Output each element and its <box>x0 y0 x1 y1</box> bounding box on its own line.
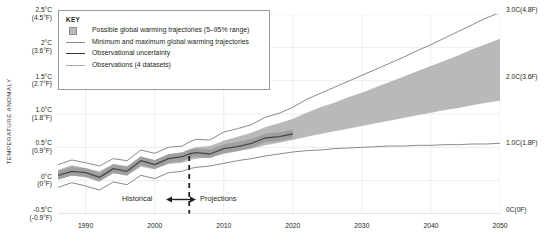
left-tick-1: 2°C(3.6°F) <box>6 39 52 54</box>
left-tick-6: -0.5°C(-0.9°F) <box>6 206 52 221</box>
left-tick-0: 2.5°C(4.5°F) <box>6 6 52 21</box>
era-annotations: Historical Projections <box>0 192 548 208</box>
observational-uncertainty-band <box>58 130 293 182</box>
tick-fahrenheit: (2.7°F) <box>6 80 52 88</box>
right-tick-0: 3.0C(4.8F) <box>506 6 542 14</box>
legend-line-obs-line-icon <box>66 65 85 66</box>
legend-item-label: Observational uncertainty <box>92 49 170 58</box>
x-tick-2040: 2040 <box>423 222 438 229</box>
x-tick-2030: 2030 <box>354 222 369 229</box>
tick-fahrenheit: (3.6F) <box>520 73 538 80</box>
legend-swatch-band-icon <box>69 27 77 35</box>
tick-fahrenheit: (4.5°F) <box>6 14 52 22</box>
legend-line-thin-line-icon <box>66 42 85 43</box>
legend-mark-obs-line <box>65 61 87 70</box>
tick-fahrenheit: (4.8F) <box>520 6 538 13</box>
tick-celsius: 0.5°C <box>6 139 52 147</box>
legend: KEY Possible global warming trajectories… <box>58 10 270 90</box>
legend-mark-dark-line <box>65 49 87 58</box>
legend-item-label: Observations (4 datasets) <box>92 61 171 70</box>
legend-line-dark-line-icon <box>66 53 85 54</box>
tick-celsius: 2.0C <box>506 73 520 80</box>
x-tick-2050: 2050 <box>492 222 507 229</box>
tick-celsius: 2°C <box>6 39 52 47</box>
legend-item-1: Minimum and maximum global warming traje… <box>65 38 263 47</box>
era-double-arrow-icon <box>166 195 196 204</box>
x-tick-2020: 2020 <box>285 222 300 229</box>
left-tick-4: 0.5°C(0.9°F) <box>6 139 52 154</box>
climate-projection-chart: TEMPERATURE ANOMALY 2.5°C(4.5°F)2°C(3.6°… <box>0 0 548 243</box>
era-label-projections: Projections <box>200 194 237 203</box>
tick-fahrenheit: (0.9°F) <box>6 147 52 155</box>
tick-celsius: 1.0C <box>506 139 520 146</box>
legend-mark-thin-line <box>65 38 87 47</box>
legend-item-2: Observational uncertainty <box>65 49 263 58</box>
tick-fahrenheit: (1.8°F) <box>6 114 52 122</box>
tick-fahrenheit: (1.8F) <box>520 139 538 146</box>
left-tick-5: 0°C(0°F) <box>6 173 52 188</box>
x-tick-2000: 2000 <box>147 222 162 229</box>
legend-items: Possible global warming trajectories (5–… <box>65 26 263 70</box>
era-label-historical: Historical <box>122 194 152 203</box>
legend-title: KEY <box>66 16 263 23</box>
x-tick-2010: 2010 <box>216 222 231 229</box>
legend-item-label: Possible global warming trajectories (5–… <box>92 26 249 35</box>
tick-celsius: 3.0C <box>506 6 520 13</box>
x-axis-ticks: 1990200020102020203020402050 <box>0 222 548 236</box>
tick-fahrenheit: (0°F) <box>6 180 52 188</box>
tick-fahrenheit: (-0.9°F) <box>6 214 52 222</box>
right-tick-2: 1.0C(1.8F) <box>506 139 542 147</box>
legend-mark-swatch <box>65 26 87 35</box>
legend-item-0: Possible global warming trajectories (5–… <box>65 26 263 35</box>
tick-celsius: 1.0°C <box>6 106 52 114</box>
legend-item-3: Observations (4 datasets) <box>65 61 263 70</box>
left-tick-3: 1.0°C(1.8°F) <box>6 106 52 121</box>
right-tick-1: 2.0C(3.6F) <box>506 73 542 81</box>
tick-fahrenheit: (3.6°F) <box>6 47 52 55</box>
tick-celsius: 2.5°C <box>6 6 52 14</box>
left-tick-2: 1.5°C(2.7°F) <box>6 73 52 88</box>
x-tick-1990: 1990 <box>78 222 93 229</box>
tick-celsius: 1.5°C <box>6 73 52 81</box>
legend-item-label: Minimum and maximum global warming traje… <box>92 38 249 47</box>
tick-celsius: 0°C <box>6 173 52 181</box>
